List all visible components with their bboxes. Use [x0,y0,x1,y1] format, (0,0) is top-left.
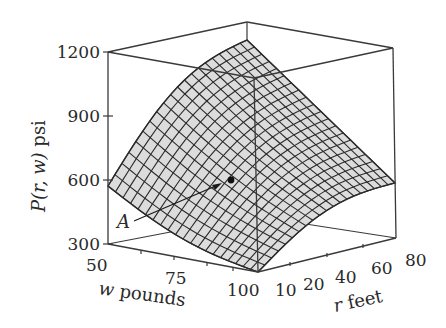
z-tick-600: 600 [68,170,100,190]
point-a-marker [228,177,235,184]
r-tick-60: 60 [371,258,393,278]
r-axis-title: r feet [331,285,385,316]
z-tick-900: 900 [68,106,100,126]
r-tick-10: 10 [275,280,297,300]
z-axis-title-unit: psi [28,120,49,152]
r-axis-ticks [290,244,363,266]
w-tick-75: 75 [165,268,187,288]
r-tick-40: 40 [335,267,357,287]
r-axis-title-unit: feet [340,285,385,314]
z-axis-title-var: P(r, w) [28,152,49,213]
z-axis-title: P(r, w) psi [28,120,49,213]
r-tick-20: 20 [303,274,325,294]
z-tick-300: 300 [68,234,100,254]
z-tick-1200: 1200 [57,42,100,62]
r-tick-80: 80 [405,250,427,270]
point-a-label: A [115,211,130,232]
w-tick-50: 50 [86,255,108,275]
surface-mesh [108,40,395,272]
surface-plot: 1200 900 600 300 50 75 100 10 20 40 60 8… [0,0,446,328]
w-tick-100: 100 [227,280,259,300]
